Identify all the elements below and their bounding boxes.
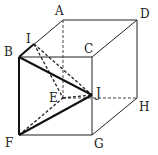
label-F: F	[5, 136, 13, 150]
visible-edges	[19, 20, 137, 135]
label-B: B	[4, 45, 13, 59]
label-G: G	[94, 137, 104, 151]
edge-GH	[92, 98, 137, 135]
label-J: J	[94, 86, 101, 100]
vertex-labels: A D B I C J E H F G	[4, 4, 150, 151]
label-E: E	[49, 91, 58, 105]
label-D: D	[140, 7, 150, 21]
label-A: A	[54, 4, 64, 18]
edge-DC	[92, 20, 137, 57]
cube-diagram: A D B I C J E H F G	[0, 0, 158, 155]
label-I: I	[26, 32, 31, 46]
segment-BJ	[19, 57, 92, 95]
segment-IE	[34, 44, 63, 98]
label-C: C	[84, 42, 93, 56]
bold-segments	[19, 44, 92, 135]
label-H: H	[139, 100, 149, 114]
